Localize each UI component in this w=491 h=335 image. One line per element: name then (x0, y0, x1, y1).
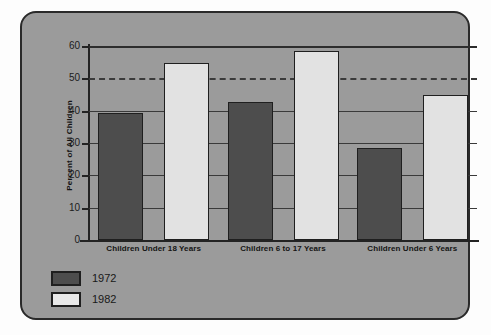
x-axis-line (80, 240, 479, 242)
category-label-3: Children Under 6 Years (348, 244, 477, 253)
y-tick-mark-40 (82, 111, 89, 113)
y-tick-label-wrap-50: 50 (50, 73, 80, 83)
legend-item-1972: 1972 (51, 271, 116, 286)
gridline-50 (89, 78, 477, 80)
y-tick-label-0: 0 (58, 235, 80, 245)
legend-label-1982: 1982 (92, 294, 116, 305)
y-tick-label-40: 40 (58, 106, 80, 116)
category-label-2: Children 6 to 17 Years (218, 244, 347, 253)
y-tick-mark-10 (82, 208, 89, 210)
y-tick-label-10: 10 (58, 203, 80, 213)
y-tick-mark-50 (82, 78, 89, 80)
chart-panel: Percent of All Children 0102030405060 Ch… (20, 11, 470, 320)
y-tick-mark-20 (82, 175, 89, 177)
bar-1972-group-2 (228, 102, 273, 240)
gridline-10 (89, 208, 477, 209)
gridline-60 (89, 46, 477, 48)
bar-1972-group-3 (357, 148, 402, 240)
y-tick-mark-60 (82, 46, 89, 48)
y-tick-label-20: 20 (58, 170, 80, 180)
legend-item-1982: 1982 (51, 292, 116, 307)
y-tick-label-wrap-0: 0 (50, 235, 80, 245)
gridline-30 (89, 143, 477, 144)
plot-area (89, 46, 477, 240)
bar-1982-group-3 (423, 95, 468, 240)
category-label-1: Children Under 18 Years (89, 244, 218, 253)
bar-1972-group-1 (98, 113, 143, 240)
bar-1982-group-1 (164, 63, 209, 240)
gridline-20 (89, 175, 477, 176)
y-tick-label-wrap-20: 20 (50, 170, 80, 180)
light-gray-swatch (51, 292, 81, 307)
y-tick-label-60: 60 (58, 41, 80, 51)
y-tick-label-wrap-10: 10 (50, 203, 80, 213)
y-tick-label-wrap-60: 60 (50, 41, 80, 51)
chart-container: Percent of All Children 0102030405060 Ch… (0, 0, 491, 335)
y-tick-mark-30 (82, 143, 89, 145)
dark-gray-swatch (51, 271, 81, 286)
y-tick-label-30: 30 (58, 138, 80, 148)
y-tick-label-wrap-40: 40 (50, 106, 80, 116)
bar-1982-group-2 (294, 51, 339, 240)
y-tick-label-50: 50 (58, 73, 80, 83)
legend: 19721982 (51, 271, 116, 313)
gridline-40 (89, 111, 477, 112)
y-tick-label-wrap-30: 30 (50, 138, 80, 148)
legend-label-1972: 1972 (92, 273, 116, 284)
